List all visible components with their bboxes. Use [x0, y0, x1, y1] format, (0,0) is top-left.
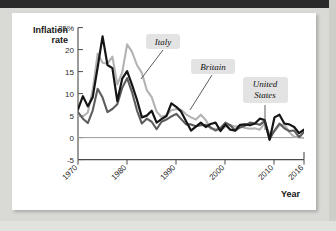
annotation-britain[interactable]: Britain — [191, 59, 235, 74]
x-tick-2000: 2000 — [207, 163, 226, 182]
x-tick-2010: 2010 — [256, 163, 275, 182]
chart-card: Inflation rate 25% 20 15 10 5 0 -5 — [12, 13, 316, 210]
right-edge-band — [329, 0, 336, 231]
annotation-united-states-label-line2: States — [254, 90, 276, 100]
annotation-italy[interactable]: Italy — [146, 34, 180, 49]
y-tick-15: 15 — [65, 68, 74, 77]
x-tick-1980: 1980 — [109, 163, 128, 182]
x-axis-ticks: 1970 1980 1990 2000 2010 2016 — [60, 160, 305, 182]
annotation-united-states[interactable]: United States — [243, 77, 288, 103]
y-axis-ticks: 25% 20 15 10 5 0 -5 — [58, 24, 83, 165]
y-tick-20: 20 — [65, 46, 74, 55]
annotation-britain-label: Britain — [200, 62, 226, 72]
page-background: Inflation rate 25% 20 15 10 5 0 -5 — [0, 0, 336, 231]
leader-line-britain — [190, 75, 212, 110]
x-axis-label: Year — [281, 189, 301, 199]
y-axis-label-line2: rate — [51, 35, 68, 45]
y-tick-5: 5 — [70, 112, 75, 121]
top-dark-band — [0, 0, 336, 8]
inflation-rate-line-chart: Inflation rate 25% 20 15 10 5 0 -5 — [12, 13, 316, 210]
y-tick-25: 25% — [58, 24, 74, 33]
x-tick-1990: 1990 — [158, 163, 177, 182]
y-tick-10: 10 — [65, 90, 74, 99]
annotation-united-states-label-line1: United — [253, 79, 278, 89]
x-tick-1970: 1970 — [60, 163, 79, 182]
annotation-italy-label: Italy — [154, 37, 172, 47]
leader-line-italy — [141, 50, 163, 79]
bottom-light-band — [0, 221, 336, 231]
x-tick-2016: 2016 — [286, 163, 305, 182]
y-tick-0: 0 — [70, 134, 75, 143]
